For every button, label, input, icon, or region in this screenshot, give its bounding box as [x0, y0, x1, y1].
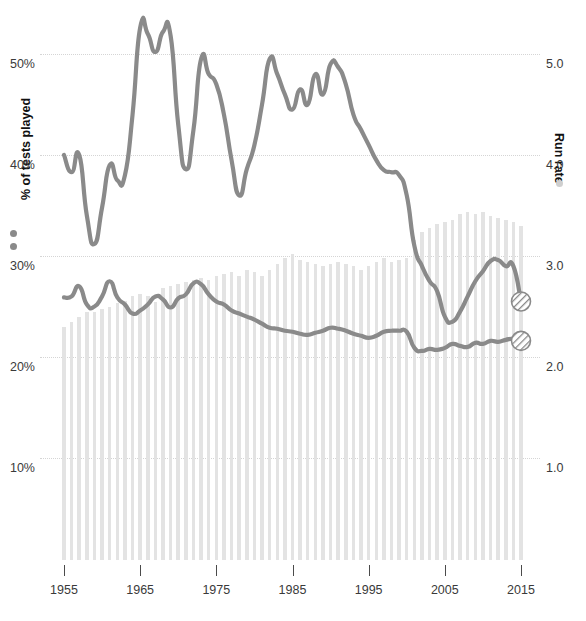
- y-tick-label: 50%: [10, 57, 35, 71]
- x-tick: [64, 565, 65, 576]
- line-series-layer: [0, 0, 586, 621]
- y-tick-label: 40%: [10, 158, 35, 172]
- y2-tick-label: 4.0: [546, 158, 563, 172]
- x-tick: [293, 565, 294, 576]
- line-series--of-tests-played: [64, 18, 521, 323]
- x-tick: [521, 565, 522, 576]
- x-tick: [369, 565, 370, 576]
- x-tick: [140, 565, 141, 576]
- y2-tick-label: 1.0: [546, 461, 563, 475]
- y-tick-label: 10%: [10, 461, 35, 475]
- line-series-run-rate: [64, 281, 521, 351]
- end-marker: [512, 331, 531, 350]
- x-tick: [216, 565, 217, 576]
- x-tick-label: 2015: [499, 583, 543, 597]
- y2-tick-label: 3.0: [546, 259, 563, 273]
- x-tick-label: 1975: [194, 583, 238, 597]
- x-tick-label: 1955: [42, 583, 86, 597]
- y2-tick-label: 2.0: [546, 360, 563, 374]
- y2-tick-label: 5.0: [546, 57, 563, 71]
- x-tick: [445, 565, 446, 576]
- x-tick-label: 2005: [423, 583, 467, 597]
- y-tick-label: 30%: [10, 259, 35, 273]
- end-marker: [512, 292, 531, 311]
- x-tick-label: 1985: [271, 583, 315, 597]
- chart-container: % of tests played Run rate 10%20%30%40%5…: [0, 0, 586, 621]
- y-tick-label: 20%: [10, 360, 35, 374]
- plot-area: 10%20%30%40%50% 1.02.03.04.05.0 19551965…: [0, 0, 586, 621]
- x-tick-label: 1965: [118, 583, 162, 597]
- x-tick-label: 1995: [347, 583, 391, 597]
